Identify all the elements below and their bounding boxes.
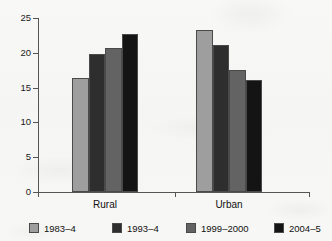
bar-urban-1983-4 — [196, 30, 213, 192]
y-tick-15 — [33, 88, 38, 89]
x-axis-group-label-urban: Urban — [198, 199, 260, 211]
x-tick-middle — [175, 192, 176, 197]
y-axis-label-15: 15 — [3, 83, 31, 93]
legend-item-2004-5: 2004–5 — [274, 221, 321, 235]
y-tick-20 — [33, 53, 38, 54]
legend-item-1983-4: 1983–4 — [29, 221, 76, 235]
chart-legend: 1983–4 1993–4 1999–2000 2004–5 — [0, 221, 332, 241]
bar-urban-2004-5 — [246, 80, 263, 192]
y-tick-25 — [33, 18, 38, 19]
bar-rural-1993-4 — [89, 54, 106, 192]
bar-rural-1999-2000 — [105, 48, 122, 192]
bar-chart: 25 20 15 10 5 0 Rural Urban — [0, 0, 332, 241]
y-tick-10 — [33, 122, 38, 123]
legend-label-2004-5: 2004–5 — [289, 223, 321, 234]
legend-item-1999-2000: 1999–2000 — [186, 221, 249, 235]
x-tick-end — [309, 192, 310, 197]
y-axis-label-0: 0 — [3, 187, 31, 197]
legend-label-1983-4: 1983–4 — [44, 223, 76, 234]
y-axis-label-10: 10 — [3, 117, 31, 127]
legend-label-1999-2000: 1999–2000 — [201, 223, 249, 234]
y-axis-line — [38, 18, 39, 193]
y-axis-label-20: 20 — [3, 48, 31, 58]
legend-swatch-1999-2000 — [186, 223, 196, 233]
legend-swatch-1983-4 — [29, 223, 39, 233]
legend-item-1993-4: 1993–4 — [112, 221, 159, 235]
bar-urban-1993-4 — [213, 45, 230, 192]
legend-label-1993-4: 1993–4 — [127, 223, 159, 234]
x-tick-start — [38, 192, 39, 197]
bar-rural-1983-4 — [72, 78, 89, 192]
legend-swatch-1993-4 — [112, 223, 122, 233]
y-axis-label-25: 25 — [3, 13, 31, 23]
plot-area: 25 20 15 10 5 0 Rural Urban — [0, 0, 332, 241]
y-tick-5 — [33, 157, 38, 158]
x-axis-line — [38, 192, 310, 193]
bar-urban-1999-2000 — [229, 70, 246, 192]
bar-rural-2004-5 — [122, 34, 139, 192]
legend-swatch-2004-5 — [274, 223, 284, 233]
y-axis-label-5: 5 — [3, 152, 31, 162]
x-axis-group-label-rural: Rural — [74, 199, 136, 211]
